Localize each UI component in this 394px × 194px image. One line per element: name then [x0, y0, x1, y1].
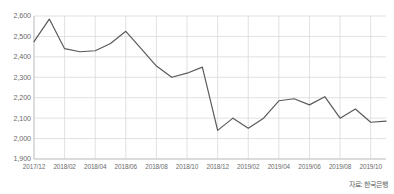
- x-axis-tick-label: 2018/06: [115, 164, 137, 170]
- x-axis-tick-label: 2018/02: [53, 164, 75, 170]
- x-axis-tick-labels: 2017/122018/022018/042018/062018/082018/…: [0, 0, 394, 194]
- x-axis-tick-label: 2017/12: [23, 164, 45, 170]
- x-axis-tick-label: 2019/04: [268, 164, 290, 170]
- x-axis-tick-label: 2018/04: [84, 164, 106, 170]
- x-axis-tick-label: 2019/10: [359, 164, 381, 170]
- line-chart: 2,6002,5002,4002,3002,2002,1002,0001,900…: [0, 0, 394, 194]
- source-note: 자료: 한국은행: [349, 179, 388, 189]
- x-axis-tick-label: 2018/10: [176, 164, 198, 170]
- x-axis-tick-label: 2019/02: [237, 164, 259, 170]
- x-axis-tick-label: 2018/08: [145, 164, 167, 170]
- x-axis-tick-label: 2019/06: [298, 164, 320, 170]
- x-axis-tick-label: 2019/08: [329, 164, 351, 170]
- x-axis-tick-label: 2018/12: [206, 164, 228, 170]
